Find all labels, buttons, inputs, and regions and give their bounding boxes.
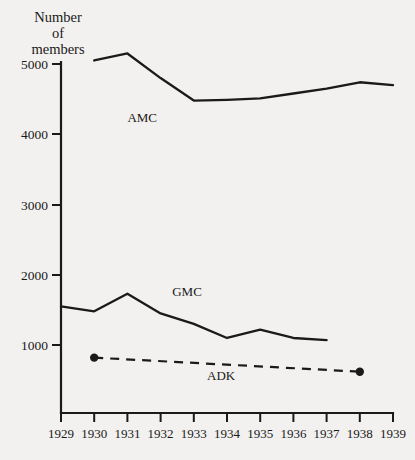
y-tick-label-2000: 2000 xyxy=(21,268,48,283)
series-line-gmc xyxy=(61,294,327,340)
line-chart-svg: Number of members 1000 2000 3000 4000 50… xyxy=(0,0,415,460)
y-axis-ticks: 1000 2000 3000 4000 5000 xyxy=(21,57,61,353)
series-annotations: AMC GMC ADK xyxy=(127,110,235,383)
series-line-amc xyxy=(94,53,393,100)
x-tick-label-1932: 1932 xyxy=(148,426,174,441)
x-tick-label-1938: 1938 xyxy=(347,426,373,441)
x-tick-label-1934: 1934 xyxy=(214,426,241,441)
x-tick-label-1929: 1929 xyxy=(48,426,74,441)
y-tick-label-1000: 1000 xyxy=(21,338,48,353)
y-tick-label-5000: 5000 xyxy=(21,57,48,72)
x-tick-label-1933: 1933 xyxy=(181,426,207,441)
series-point-adk xyxy=(90,353,98,361)
series-label-gmc: GMC xyxy=(172,284,202,299)
series-group xyxy=(61,53,393,375)
series-label-adk: ADK xyxy=(207,368,236,383)
series-point-adk xyxy=(356,367,364,375)
y-axis-title-line-3: members xyxy=(31,41,85,57)
x-axis-ticks: 1929 1930 1931 1932 1933 1934 1935 1936 … xyxy=(48,413,406,441)
y-axis-title-line-1: Number xyxy=(34,9,82,25)
x-tick-label-1935: 1935 xyxy=(247,426,273,441)
chart-container: Number of members 1000 2000 3000 4000 50… xyxy=(0,0,415,460)
y-tick-label-4000: 4000 xyxy=(21,127,48,142)
y-tick-label-3000: 3000 xyxy=(21,198,48,213)
y-axis-title: Number of members xyxy=(31,9,85,57)
y-axis-title-line-2: of xyxy=(52,25,64,41)
x-tick-label-1936: 1936 xyxy=(280,426,307,441)
series-label-amc: AMC xyxy=(127,110,157,125)
x-tick-label-1939: 1939 xyxy=(380,426,406,441)
x-tick-label-1930: 1930 xyxy=(81,426,107,441)
x-tick-label-1931: 1931 xyxy=(114,426,140,441)
x-tick-label-1937: 1937 xyxy=(314,426,341,441)
